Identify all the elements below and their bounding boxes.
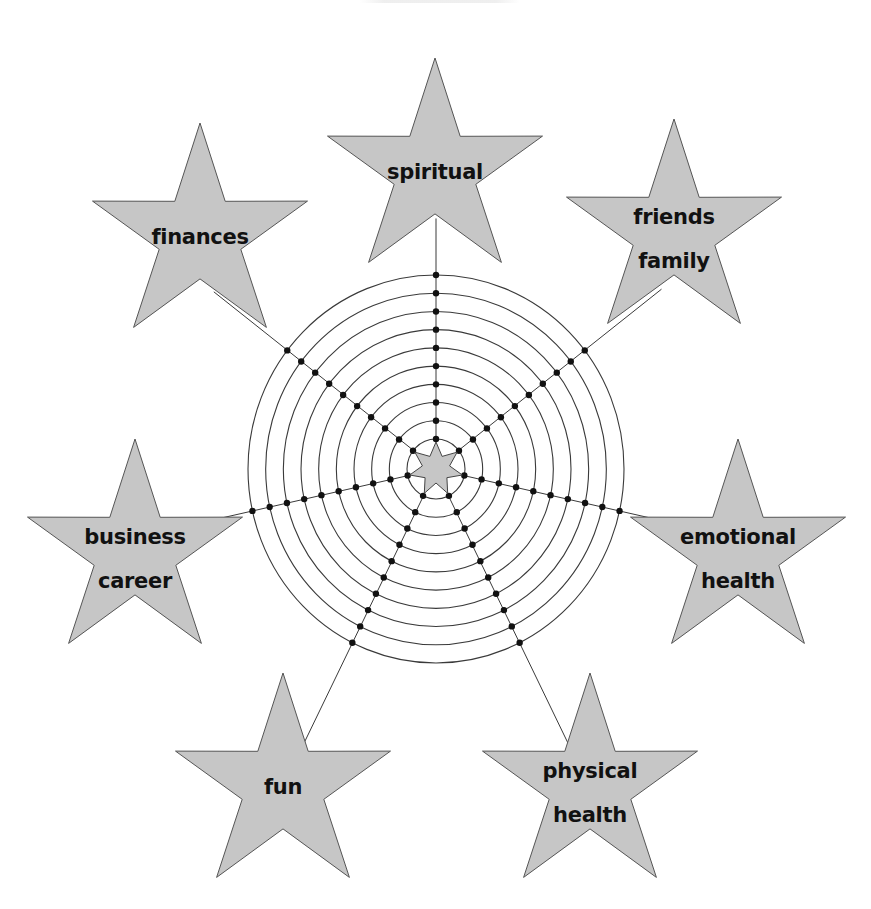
rating-dot-fun-1[interactable] bbox=[420, 493, 426, 499]
rating-dot-finances-10[interactable] bbox=[284, 347, 290, 353]
rating-dot-emotional-health-2[interactable] bbox=[478, 476, 484, 482]
rating-dot-fun-6[interactable] bbox=[381, 574, 387, 580]
rating-dot-spiritual-6[interactable] bbox=[433, 345, 439, 351]
rating-dot-fun-7[interactable] bbox=[373, 591, 379, 597]
rating-dot-fun-4[interactable] bbox=[396, 542, 402, 548]
rating-dot-spiritual-2[interactable] bbox=[433, 418, 439, 424]
rating-dot-friends-family-9[interactable] bbox=[568, 358, 574, 364]
rating-dot-friends-family-7[interactable] bbox=[540, 381, 546, 387]
rating-dot-friends-family-10[interactable] bbox=[582, 347, 588, 353]
rating-dot-emotional-health-6[interactable] bbox=[547, 492, 553, 498]
rating-dot-finances-4[interactable] bbox=[368, 414, 374, 420]
rating-dot-business-career-9[interactable] bbox=[266, 504, 272, 510]
rating-dot-business-career-2[interactable] bbox=[387, 476, 393, 482]
rating-dot-fun-9[interactable] bbox=[357, 623, 363, 629]
label-friends-family-line-1: friends bbox=[633, 205, 714, 229]
label-physical-health-line-1: physical bbox=[543, 759, 638, 783]
rating-dot-business-career-5[interactable] bbox=[335, 488, 341, 494]
label-physical-health-line-2: health bbox=[553, 803, 627, 827]
rating-dot-finances-9[interactable] bbox=[298, 358, 304, 364]
rating-dot-fun-8[interactable] bbox=[365, 607, 371, 613]
rating-dot-physical-health-4[interactable] bbox=[469, 542, 475, 548]
rating-dot-business-career-3[interactable] bbox=[370, 480, 376, 486]
rating-dot-friends-family-3[interactable] bbox=[484, 425, 490, 431]
rating-dot-physical-health-2[interactable] bbox=[454, 509, 460, 515]
rating-dot-fun-3[interactable] bbox=[404, 525, 410, 531]
wheel-of-life-diagram: spiritualfriendsfamilyemotionalhealthphy… bbox=[0, 0, 871, 909]
rating-dot-friends-family-4[interactable] bbox=[498, 414, 504, 420]
rating-dot-emotional-health-7[interactable] bbox=[565, 496, 571, 502]
center-star-icon bbox=[410, 442, 463, 493]
rating-dot-business-career-6[interactable] bbox=[318, 492, 324, 498]
rating-dot-friends-family-6[interactable] bbox=[526, 392, 532, 398]
rating-dot-business-career-10[interactable] bbox=[249, 508, 255, 514]
center-star-icon bbox=[410, 442, 463, 493]
rating-dot-physical-health-1[interactable] bbox=[446, 493, 452, 499]
rating-dot-business-career-7[interactable] bbox=[301, 496, 307, 502]
rating-dot-emotional-health-10[interactable] bbox=[616, 508, 622, 514]
rating-dot-physical-health-9[interactable] bbox=[509, 623, 515, 629]
rating-dot-emotional-health-8[interactable] bbox=[582, 500, 588, 506]
rating-dot-emotional-health-3[interactable] bbox=[496, 480, 502, 486]
rating-dot-fun-2[interactable] bbox=[412, 509, 418, 515]
rating-dot-business-career-8[interactable] bbox=[284, 500, 290, 506]
rating-dot-business-career-4[interactable] bbox=[353, 484, 359, 490]
rating-dot-physical-health-7[interactable] bbox=[493, 591, 499, 597]
rating-dot-finances-3[interactable] bbox=[382, 425, 388, 431]
rating-dot-emotional-health-4[interactable] bbox=[513, 484, 519, 490]
rating-dot-emotional-health-9[interactable] bbox=[599, 504, 605, 510]
rating-dot-spiritual-8[interactable] bbox=[433, 308, 439, 314]
rating-dot-friends-family-5[interactable] bbox=[512, 403, 518, 409]
rating-dot-spiritual-4[interactable] bbox=[433, 381, 439, 387]
spoke-fun bbox=[304, 496, 424, 743]
rating-dot-finances-2[interactable] bbox=[396, 436, 402, 442]
rating-dot-physical-health-8[interactable] bbox=[501, 607, 507, 613]
rating-dot-fun-10[interactable] bbox=[349, 640, 355, 646]
label-business-career-line-1: business bbox=[84, 525, 185, 549]
label-emotional-health-line-1: emotional bbox=[680, 525, 796, 549]
rating-dot-physical-health-10[interactable] bbox=[516, 640, 522, 646]
rating-dot-friends-family-2[interactable] bbox=[470, 436, 476, 442]
rating-dot-spiritual-10[interactable] bbox=[433, 272, 439, 278]
rating-dot-physical-health-5[interactable] bbox=[477, 558, 483, 564]
rating-dot-spiritual-3[interactable] bbox=[433, 399, 439, 405]
label-business-career-line-2: career bbox=[98, 569, 173, 593]
rating-dot-physical-health-3[interactable] bbox=[461, 525, 467, 531]
label-fun: fun bbox=[264, 775, 302, 799]
rating-dot-fun-5[interactable] bbox=[388, 558, 394, 564]
rating-dot-spiritual-7[interactable] bbox=[433, 326, 439, 332]
rating-dot-finances-8[interactable] bbox=[312, 369, 318, 375]
rating-dot-physical-health-6[interactable] bbox=[485, 574, 491, 580]
rating-dot-spiritual-5[interactable] bbox=[433, 363, 439, 369]
rating-dot-spiritual-9[interactable] bbox=[433, 290, 439, 296]
rating-dot-emotional-health-5[interactable] bbox=[530, 488, 536, 494]
rating-dot-finances-7[interactable] bbox=[326, 381, 332, 387]
label-finances: finances bbox=[151, 225, 248, 249]
rating-dot-finances-6[interactable] bbox=[340, 392, 346, 398]
rating-dot-friends-family-8[interactable] bbox=[554, 369, 560, 375]
label-emotional-health-line-2: health bbox=[701, 569, 775, 593]
label-friends-family-line-2: family bbox=[638, 249, 710, 273]
rating-dot-finances-5[interactable] bbox=[354, 403, 360, 409]
label-spiritual: spiritual bbox=[387, 160, 483, 184]
spoke-physical-health bbox=[449, 496, 569, 744]
